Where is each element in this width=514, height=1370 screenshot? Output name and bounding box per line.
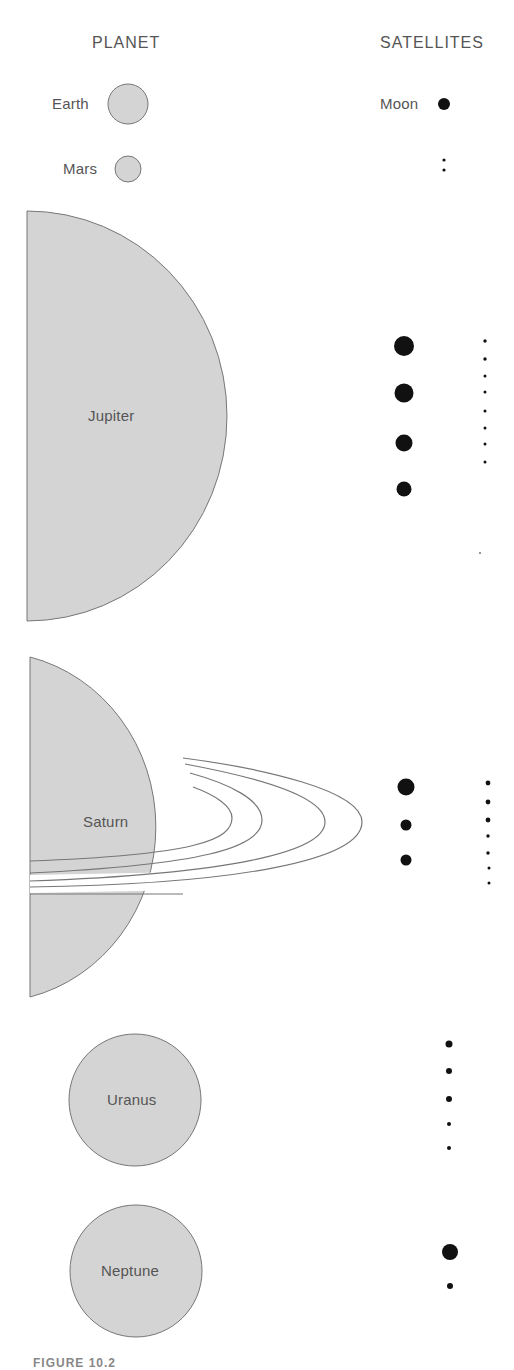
earth-label: Earth <box>52 95 89 112</box>
jupiter-large-satellite <box>395 384 414 403</box>
jupiter-small-satellite <box>484 391 487 394</box>
uranus-satellite <box>446 1068 452 1074</box>
saturn-small-satellite <box>486 834 489 837</box>
mars-satellite <box>442 168 445 171</box>
jupiter-label: Jupiter <box>88 407 134 424</box>
saturn-small-satellite <box>488 867 491 870</box>
jupiter-large-satellite <box>397 482 412 497</box>
satellites-column-header: SATELLITES <box>380 34 484 52</box>
saturn-ring-band <box>30 872 190 893</box>
uranus-satellite <box>447 1146 451 1150</box>
moon-label: Moon <box>380 95 418 112</box>
planet-column-header: PLANET <box>92 34 160 52</box>
saturn-small-satellite <box>486 781 491 786</box>
earth-disc <box>108 84 148 124</box>
saturn-large-satellite <box>401 820 412 831</box>
uranus-satellite <box>447 1122 451 1126</box>
mars-disc <box>115 156 141 182</box>
mars-satellite <box>442 158 445 161</box>
saturn-label: Saturn <box>83 813 128 830</box>
saturn-small-satellite <box>486 818 491 823</box>
mars-label: Mars <box>63 160 97 177</box>
jupiter-small-satellite <box>484 410 487 413</box>
uranus-satellite <box>446 1041 453 1048</box>
uranus-label: Uranus <box>107 1091 157 1108</box>
saturn-large-satellite <box>401 855 412 866</box>
saturn-small-satellite <box>488 882 491 885</box>
jupiter-large-satellite <box>396 435 413 452</box>
neptune-label: Neptune <box>101 1262 159 1279</box>
jupiter-small-satellite <box>483 357 486 360</box>
neptune-large-satellite <box>442 1244 458 1260</box>
jupiter-large-satellite <box>394 336 414 356</box>
moon-satellite <box>438 98 450 110</box>
satellites <box>394 98 491 1289</box>
jupiter-small-satellite <box>484 461 487 464</box>
uranus-satellite <box>446 1096 452 1102</box>
neptune-small-satellite <box>447 1283 453 1289</box>
jupiter-small-satellite <box>484 443 487 446</box>
figure-caption: FIGURE 10.2 <box>33 1356 116 1370</box>
saturn-small-satellite <box>486 851 489 854</box>
saturn-large-satellite <box>398 779 415 796</box>
jupiter-small-satellite <box>479 552 481 554</box>
saturn-small-satellite <box>486 800 491 805</box>
jupiter-small-satellite <box>483 339 486 342</box>
jupiter-small-satellite <box>484 427 487 430</box>
jupiter-small-satellite <box>484 375 487 378</box>
